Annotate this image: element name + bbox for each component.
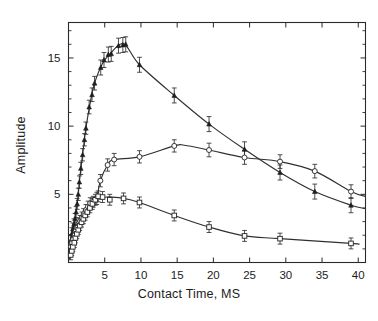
data-point-circle-open	[349, 189, 354, 194]
data-point-triangle-filled	[87, 105, 92, 109]
y-axis-title: Amplitude	[14, 90, 28, 200]
data-point-triangle-filled	[92, 81, 97, 85]
data-point-square-open	[172, 213, 177, 218]
data-point-triangle-filled	[77, 180, 82, 184]
x-tick-label-40: 40	[352, 269, 365, 281]
data-point-circle-open	[112, 157, 117, 162]
data-point-triangle-filled	[278, 170, 283, 174]
x-tick-label-10: 10	[135, 269, 148, 281]
data-point-triangle-filled	[90, 92, 95, 96]
data-point-triangle-filled	[76, 192, 81, 196]
figure-container: Contact Time, MS Amplitude 5101520253035…	[0, 0, 378, 321]
data-point-square-open	[278, 236, 283, 241]
data-point-triangle-filled	[80, 152, 85, 156]
data-point-square-open	[207, 225, 212, 230]
x-tick-label-20: 20	[207, 269, 220, 281]
plot-frame	[69, 23, 366, 263]
data-point-square-open	[100, 195, 105, 200]
x-tick-label-35: 35	[316, 269, 329, 281]
data-point-square-open	[349, 241, 354, 246]
data-point-triangle-filled	[79, 166, 84, 170]
data-point-circle-open	[312, 169, 317, 174]
data-point-circle-open	[98, 178, 103, 183]
data-point-circle-open	[137, 154, 142, 159]
curve-upper-curve	[69, 43, 365, 248]
data-point-square-open	[242, 234, 247, 239]
data-point-triangle-filled	[84, 126, 89, 130]
curve-lower-curve	[69, 197, 359, 259]
y-tick-label-15: 15	[33, 52, 61, 64]
y-tick-label-5: 5	[33, 188, 61, 200]
data-point-triangle-filled	[75, 201, 80, 205]
fitted-curves	[69, 43, 365, 259]
data-point-triangle-filled	[242, 147, 247, 151]
data-point-circle-open	[105, 163, 110, 168]
data-point-circle-open	[207, 148, 212, 153]
y-tick-label-10: 10	[33, 120, 61, 132]
data-point-square-open	[121, 196, 126, 201]
x-tick-label-30: 30	[279, 269, 292, 281]
axis-ticks	[69, 23, 366, 263]
data-point-square-open	[72, 240, 77, 245]
data-point-circle-open	[172, 143, 177, 148]
x-tick-label-15: 15	[171, 269, 184, 281]
data-point-square-open	[107, 197, 112, 202]
data-point-markers	[68, 42, 353, 257]
x-axis-title: Contact Time, MS	[0, 287, 378, 301]
data-point-square-open	[137, 200, 142, 205]
x-tick-label-25: 25	[243, 269, 256, 281]
data-point-circle-open	[242, 155, 247, 160]
data-point-triangle-filled	[74, 210, 79, 214]
data-point-circle-open	[278, 159, 283, 164]
data-point-triangle-filled	[82, 137, 87, 141]
x-tick-label-5: 5	[102, 269, 108, 281]
